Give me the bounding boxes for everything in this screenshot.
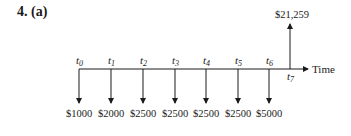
axis-label-time: Time	[312, 63, 335, 75]
svg-text:t6: t6	[266, 54, 273, 68]
svg-text:$2500: $2500	[193, 108, 219, 119]
svg-text:t0: t0	[76, 54, 83, 68]
inflow-label: $21,259	[275, 9, 309, 20]
svg-text:t7: t7	[287, 70, 295, 84]
svg-text:$5000: $5000	[256, 108, 282, 119]
svg-text:t2: t2	[140, 54, 147, 68]
svg-text:$1000: $1000	[66, 108, 92, 119]
svg-text:t5: t5	[235, 54, 242, 68]
svg-text:t1: t1	[108, 54, 115, 68]
svg-text:t4: t4	[203, 54, 210, 68]
svg-text:$2500: $2500	[225, 108, 251, 119]
svg-text:t3: t3	[172, 54, 179, 68]
cash-flow-timeline: Time t0 t1 t2 t3 t4 t5 t6 t7 $1000 $2000…	[0, 0, 351, 136]
outflow-labels: $1000 $2000 $2500 $2500 $2500 $2500 $500…	[66, 108, 282, 119]
svg-text:$2500: $2500	[130, 108, 156, 119]
outflow-arrows	[79, 69, 269, 103]
svg-text:$2500: $2500	[162, 108, 188, 119]
svg-text:$2000: $2000	[98, 108, 124, 119]
